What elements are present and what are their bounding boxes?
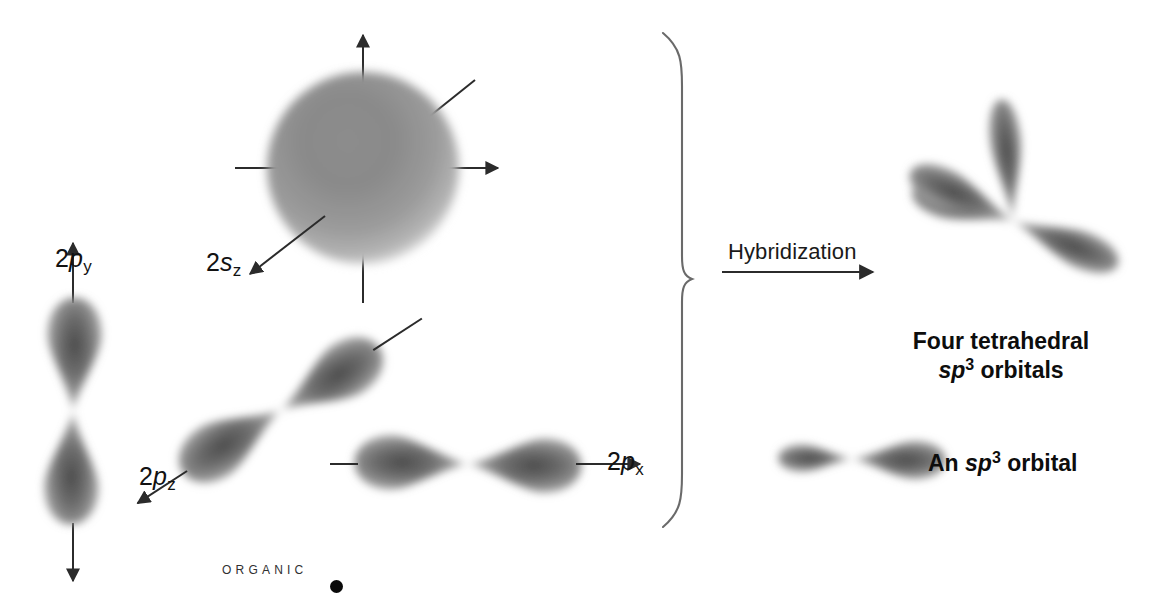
label-2s: 2sz <box>206 250 241 279</box>
orbital-2px <box>330 435 640 493</box>
sphere-2s <box>267 72 459 264</box>
footer-bullet-dot <box>330 580 343 593</box>
axis-2pz-upper <box>373 319 422 351</box>
figure-graphics <box>0 0 1155 595</box>
sp3-single-small-lobe <box>778 445 852 472</box>
footer-brand: ORGANIC <box>222 563 307 577</box>
sp3-single-orbital <box>778 441 946 479</box>
grouping-brace <box>663 33 692 527</box>
sp3-tetrahedral-cluster <box>902 98 1124 282</box>
hybridization-label: Hybridization <box>728 239 856 265</box>
label-2pz: 2pz <box>139 464 176 493</box>
label-2py: 2py <box>55 246 92 275</box>
lobes-2py <box>44 297 102 524</box>
lobes-2px <box>354 435 581 493</box>
sp3-lobe-right <box>1006 205 1125 282</box>
orbital-hybridization-figure: 2py 2sz 2pz 2px Hybridization Four tetra… <box>0 0 1155 595</box>
orbital-2py <box>44 243 102 581</box>
caption-an-sp3-orbital: An sp3 orbital <box>928 448 1077 477</box>
orbital-2s <box>235 35 498 303</box>
label-2px: 2px <box>607 449 644 478</box>
caption-four-tetrahedral-sp3: Four tetrahedral sp3 orbitals <box>876 327 1126 384</box>
